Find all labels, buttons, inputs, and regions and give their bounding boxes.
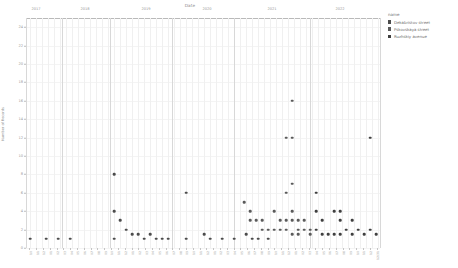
year-separator xyxy=(62,18,63,248)
data-point xyxy=(369,136,372,139)
data-point xyxy=(345,228,348,231)
data-point xyxy=(303,228,306,231)
gridline-vertical xyxy=(162,18,163,248)
data-point xyxy=(285,219,288,222)
x-tick-mark xyxy=(322,248,323,250)
gridline-vertical xyxy=(258,18,259,248)
x-tick-label: 03 xyxy=(63,251,67,255)
x-tick-mark xyxy=(315,248,316,250)
year-separator xyxy=(172,18,173,248)
gridline-horizontal xyxy=(26,230,380,231)
gridline-vertical xyxy=(60,18,61,248)
gridline-vertical xyxy=(354,18,355,248)
gridline-vertical xyxy=(330,18,331,248)
data-point xyxy=(251,238,254,241)
year-separator xyxy=(26,18,27,248)
x-tick-mark xyxy=(193,248,194,250)
data-point xyxy=(267,238,270,241)
x-tick-mark xyxy=(261,248,262,250)
x-tick-mark xyxy=(29,248,30,250)
x-tick-label: 10 xyxy=(356,251,360,255)
year-label: 2018 xyxy=(80,7,89,11)
gridline-horizontal xyxy=(26,46,380,47)
x-tick-label: 06 xyxy=(83,251,87,255)
gridline-vertical xyxy=(36,18,37,248)
x-tick-label: 01 xyxy=(213,251,217,255)
year-separator xyxy=(310,18,311,248)
data-point xyxy=(209,238,212,241)
data-point xyxy=(113,173,116,176)
x-tick-mark xyxy=(336,248,337,250)
data-point xyxy=(291,100,294,103)
gridline-vertical xyxy=(216,18,217,248)
year-label: 2021 xyxy=(267,7,276,11)
x-tick-label: 02 xyxy=(301,251,305,255)
legend-item[interactable]: Dekabristov street xyxy=(388,20,430,25)
gridline-vertical xyxy=(246,18,247,248)
data-point xyxy=(297,233,300,236)
x-tick-mark xyxy=(349,248,350,250)
data-point xyxy=(291,219,294,222)
data-point xyxy=(267,228,270,231)
x-tick-mark xyxy=(370,248,371,250)
x-tick-mark xyxy=(179,248,180,250)
y-tick-label: 6 xyxy=(21,191,23,195)
x-tick-mark xyxy=(220,248,221,250)
x-tick-label: 03 xyxy=(226,251,230,255)
data-point xyxy=(233,238,236,241)
gridline-vertical xyxy=(294,18,295,248)
y-tick-mark xyxy=(24,248,26,249)
y-tick-mark xyxy=(24,137,26,138)
data-point xyxy=(291,233,294,236)
gridline-vertical xyxy=(288,18,289,248)
legend-item[interactable]: Ruzhskiy avenue xyxy=(388,34,430,39)
x-tick-label: 07 xyxy=(335,251,339,255)
x-tick-mark xyxy=(227,248,228,250)
y-tick-mark xyxy=(24,193,26,194)
year-separator xyxy=(380,18,381,248)
gridline-vertical xyxy=(378,18,379,248)
x-tick-mark xyxy=(166,248,167,250)
gridline-vertical xyxy=(252,18,253,248)
data-point xyxy=(357,228,360,231)
gridline-vertical xyxy=(114,18,115,248)
scatter-chart-root: Date 201720182019202020212022 0246810121… xyxy=(0,0,458,268)
x-tick-mark xyxy=(138,248,139,250)
x-tick-label: 02 xyxy=(56,251,60,255)
gridline-vertical xyxy=(144,18,145,248)
x-tick-label: 06 xyxy=(165,251,169,255)
data-point xyxy=(291,182,294,185)
gridline-vertical xyxy=(108,18,109,248)
x-tick-label: 11 xyxy=(362,251,366,255)
x-tick-label: 02 xyxy=(219,251,223,255)
gridline-vertical xyxy=(96,18,97,248)
gridline-vertical xyxy=(180,18,181,248)
gridline-vertical xyxy=(240,18,241,248)
x-tick-mark xyxy=(377,248,378,250)
x-tick-label: 08 xyxy=(179,251,183,255)
x-tick-label: 09 xyxy=(349,251,353,255)
x-tick-label: 01 xyxy=(49,251,53,255)
x-tick-label: 04 xyxy=(315,251,319,255)
data-point xyxy=(351,233,354,236)
data-point xyxy=(221,238,224,241)
y-tick-mark xyxy=(24,229,26,230)
data-point xyxy=(45,238,48,241)
y-tick-label: 4 xyxy=(21,209,23,213)
x-tick-label: 11 xyxy=(281,251,285,255)
data-point xyxy=(245,233,248,236)
data-point xyxy=(161,238,164,241)
x-tick-mark xyxy=(247,248,248,250)
data-point xyxy=(309,228,312,231)
x-tick-mark xyxy=(186,248,187,250)
x-tick-label: 05 xyxy=(158,251,162,255)
chart-title: Date xyxy=(0,3,380,8)
gridline-vertical xyxy=(312,18,313,248)
x-tick-mark xyxy=(172,248,173,250)
legend-item[interactable]: Pskovskaya street xyxy=(388,27,430,32)
gridline-horizontal xyxy=(26,82,380,83)
data-point xyxy=(149,233,152,236)
x-tick-label: 11 xyxy=(199,251,203,255)
legend-swatch-icon xyxy=(388,35,391,38)
x-tick-mark xyxy=(104,248,105,250)
